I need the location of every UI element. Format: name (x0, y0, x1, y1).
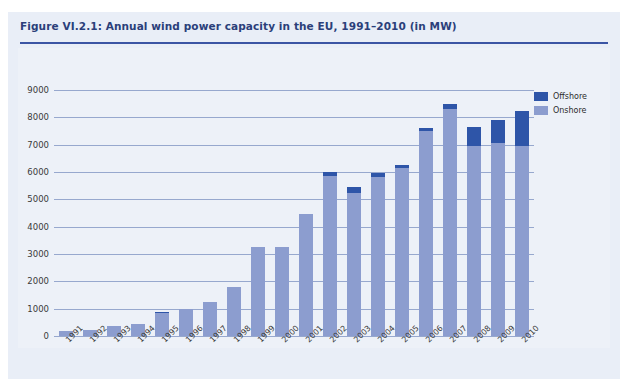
page-title: Figure VI.2.1: Annual wind power capacit… (20, 20, 457, 32)
y-axis-tick-3000: 3000 (27, 249, 49, 259)
bar-2004 (371, 173, 386, 336)
bar-segment-onshore-2008 (467, 146, 482, 336)
bar-segment-offshore-2010 (515, 111, 530, 147)
legend-swatch-icon (534, 92, 548, 101)
y-axis-tick-6000: 6000 (27, 167, 49, 177)
bar-segment-onshore-2003 (347, 193, 362, 337)
y-axis-tick-1000: 1000 (27, 304, 49, 314)
y-axis-tick-9000: 9000 (27, 85, 49, 95)
bar-segment-onshore-1998 (227, 287, 242, 336)
bar-segment-offshore-2009 (491, 120, 506, 143)
chart-legend: OffshoreOnshore (534, 92, 614, 120)
legend-swatch-icon (534, 106, 548, 115)
y-axis-tick-7000: 7000 (27, 140, 49, 150)
bar-2001 (299, 214, 314, 336)
y-axis-tick-8000: 8000 (27, 112, 49, 122)
legend-label: Offshore (553, 92, 587, 101)
bar-2003 (347, 187, 362, 336)
bar-series-group (54, 90, 534, 336)
bar-segment-onshore-2001 (299, 214, 314, 336)
bar-2000 (275, 247, 290, 336)
bar-2008 (467, 127, 482, 336)
bar-2007 (443, 104, 458, 336)
bar-2009 (491, 120, 506, 336)
y-axis-tick-5000: 5000 (27, 194, 49, 204)
x-axis-labels: 1991199219931994199519961997199819992000… (54, 338, 534, 378)
legend-item-offshore[interactable]: Offshore (534, 92, 614, 101)
figure-title-band: Figure VI.2.1: Annual wind power capacit… (8, 12, 620, 46)
chart-plot-panel: 0100020003000400050006000700080009000 19… (18, 48, 610, 348)
bar-segment-onshore-2007 (443, 109, 458, 336)
bar-segment-onshore-2005 (395, 168, 410, 336)
bar-segment-onshore-2009 (491, 143, 506, 336)
bar-2010 (515, 111, 530, 337)
bar-1999 (251, 247, 266, 336)
bar-2002 (323, 172, 338, 336)
bar-2005 (395, 165, 410, 336)
bar-segment-onshore-2004 (371, 177, 386, 336)
y-axis-tick-2000: 2000 (27, 276, 49, 286)
bar-1998 (227, 287, 242, 336)
legend-label: Onshore (553, 106, 587, 115)
bar-2006 (419, 128, 434, 336)
y-axis-tick-4000: 4000 (27, 222, 49, 232)
bar-segment-onshore-2002 (323, 176, 338, 336)
bar-segment-onshore-2006 (419, 131, 434, 336)
bar-segment-onshore-1999 (251, 247, 266, 336)
bar-segment-offshore-2008 (467, 127, 482, 146)
y-axis-labels: 0100020003000400050006000700080009000 (18, 90, 49, 336)
bar-segment-onshore-2010 (515, 146, 530, 336)
y-axis-tick-0: 0 (44, 331, 49, 341)
figure-container: Figure VI.2.1: Annual wind power capacit… (8, 12, 620, 379)
legend-item-onshore[interactable]: Onshore (534, 106, 614, 115)
bar-segment-onshore-2000 (275, 247, 290, 336)
title-divider (20, 42, 608, 44)
